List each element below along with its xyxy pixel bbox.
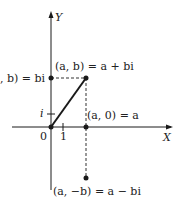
- point-origin: [49, 125, 54, 130]
- point-z-label: (a, b) = a + bi: [55, 61, 134, 72]
- y-tick-label: i: [40, 108, 44, 119]
- vector-z: [51, 78, 86, 127]
- point-imag-label: , b) = bi: [0, 73, 45, 84]
- complex-plane-diagram: [0, 0, 185, 206]
- x-tick-label: 1: [60, 131, 67, 142]
- y-axis-arrow-icon: [49, 11, 54, 18]
- point-conj: [84, 176, 89, 181]
- point-imag: [49, 76, 54, 81]
- point-z: [84, 76, 89, 81]
- y-axis-label: Y: [55, 12, 62, 23]
- x-axis-arrow-icon: [166, 125, 173, 130]
- point-real: [84, 125, 89, 130]
- point-conj-label: (a, −b) = a − bi: [53, 186, 141, 197]
- x-axis-label: X: [163, 132, 171, 143]
- point-real-label: (a, 0) = a: [87, 110, 139, 121]
- origin-label: 0: [40, 131, 47, 142]
